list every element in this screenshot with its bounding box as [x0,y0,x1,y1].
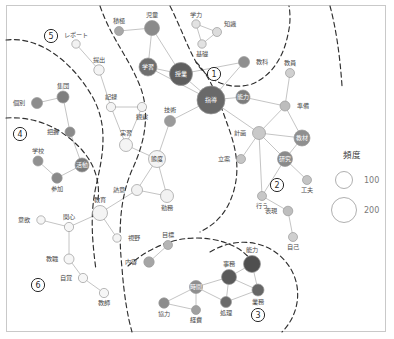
node-label-jikan: 時間 [190,283,202,291]
node-label-kyouryoku: 協力 [158,310,170,318]
node-shiya[interactable] [113,234,121,242]
cluster-boundary-8 [330,6,342,86]
node-kanshin[interactable] [64,222,73,231]
node-label-kyouin: 教員 [284,59,296,67]
node-keikaku[interactable] [253,127,266,140]
node-nouryoku[interactable] [244,256,261,273]
edge [99,70,111,107]
node-label-haaku: 把握 [47,128,59,136]
node-label-naiyou: 内容 [125,258,137,266]
node-label-katsudou: 活動 [76,161,88,169]
cluster-boundary-1 [6,40,103,270]
node-mokuhyou[interactable] [164,241,173,250]
node-sanka[interactable] [52,173,62,183]
node-iyoku[interactable] [37,216,45,224]
node-gakuryoku[interactable] [192,20,200,28]
node-chishiki[interactable] [213,28,222,37]
node-jiko[interactable] [289,233,298,242]
node-haaku[interactable] [65,127,75,137]
node-label-taido: 態度 [151,155,163,163]
node-kobetsu[interactable] [32,98,43,109]
node-kyoushi[interactable] [99,288,108,297]
node-label-ritsuan: 立案 [218,155,231,163]
node-kiroku[interactable] [106,102,115,111]
network-canvas: 積極児童学習授業学力知識基礎教科指導能力技術教員準備計画教材研究工夫立案行う表現… [0,0,394,339]
node-label-iyoku: 意欲 [18,216,30,224]
node-label-gakuryoku: 学力 [190,11,202,19]
node-label-kyouiku: 教育 [94,196,106,204]
node-shori[interactable] [221,297,232,308]
node-label-gakushuu: 学習 [142,63,154,71]
node-label-shiya: 視野 [128,234,140,242]
node-label-jikaku: 自覚 [60,274,72,282]
node-label-jimu: 事務 [223,260,236,268]
node-jidou[interactable] [145,21,160,36]
node-label-report: レポート [64,31,88,38]
node-teishutsu[interactable] [94,65,104,75]
node-label-kanshin: 関心 [63,213,75,221]
node-kiso[interactable] [198,40,206,48]
node-label-kyouzai: 教材 [296,134,308,142]
cluster-boundary-2 [100,6,146,332]
node-label-shuudan: 集団 [57,82,69,90]
node-label-jidou: 児童 [146,11,158,19]
cluster-boundary-layer [6,6,342,332]
node-label-jugyou: 授業 [175,70,187,78]
node-gijutsu[interactable] [165,116,176,127]
node-label-kobetsu: 個別 [13,99,25,107]
node-kyoushoku[interactable] [64,254,74,264]
cluster-number-2: 2 [274,181,279,190]
node-gakkou[interactable] [33,156,43,166]
cluster-number-6: 6 [35,281,40,290]
node-label-netsui: 熱意 [113,186,125,194]
node-label-gakkou: 学校 [32,147,44,155]
node-label-kyoushi: 教師 [98,299,110,307]
node-label-jisshuu: 実習 [120,129,132,137]
node-label-kiso: 基礎 [196,50,208,58]
node-label-kyoushoku: 教職 [46,255,58,263]
legend-title: 頻度 [343,150,361,160]
node-jikaku[interactable] [78,273,87,282]
node-gyoumu[interactable] [252,284,264,296]
legend-circle-200 [332,198,357,223]
legend-value-200: 200 [364,206,379,215]
node-label-teishutsu: 提出 [93,56,105,64]
node-label-shidou: 指導 [205,96,217,104]
node-label-gijutsu: 技術 [164,106,176,114]
node-hyougen[interactable] [283,206,293,216]
node-label-nouryoku2: 能力 [237,93,249,101]
cluster-number-4: 4 [17,130,22,139]
cluster-number-5: 5 [48,32,53,41]
legend-value-100: 100 [364,176,379,185]
node-jisshuu[interactable] [120,139,133,152]
node-kyouiku[interactable] [93,206,108,221]
node-kufuu[interactable] [303,176,312,185]
edge [259,133,262,196]
node-label-kinmu: 勤務 [161,204,174,212]
node-shuudan[interactable] [57,91,69,103]
node-kyouin[interactable] [286,69,295,78]
node-junbi[interactable] [280,101,290,111]
node-kyouka[interactable] [239,57,250,68]
node-label-mokuhyou: 目標 [162,231,174,239]
node-ritsuan[interactable] [237,155,246,164]
node-netsui[interactable] [132,185,143,196]
node-kansatsu[interactable] [137,102,146,111]
node-sekkyoku[interactable] [115,27,124,36]
node-label-kenkyuu: 研究 [279,155,291,163]
node-naiyou[interactable] [144,257,154,267]
node-label-kansatsu: 観察 [136,113,148,121]
node-okonau[interactable] [258,192,267,201]
node-label-sanka: 参加 [51,185,63,193]
network-diagram-figure: 積極児童学習授業学力知識基礎教科指導能力技術教員準備計画教材研究工夫立案行う表現… [0,0,394,339]
node-report[interactable] [72,40,80,48]
node-label-gyoumu: 業務 [252,298,265,306]
node-jimu[interactable] [222,270,237,285]
node-label-hyougen: 表現 [265,207,278,215]
node-label-chishiki: 知識 [224,20,236,28]
node-keihi[interactable] [192,306,201,315]
node-kinmu[interactable] [161,190,174,203]
node-label-sekkyoku: 積極 [113,17,125,25]
node-label-junbi: 準備 [297,102,309,110]
node-kyouryoku[interactable] [159,298,169,308]
